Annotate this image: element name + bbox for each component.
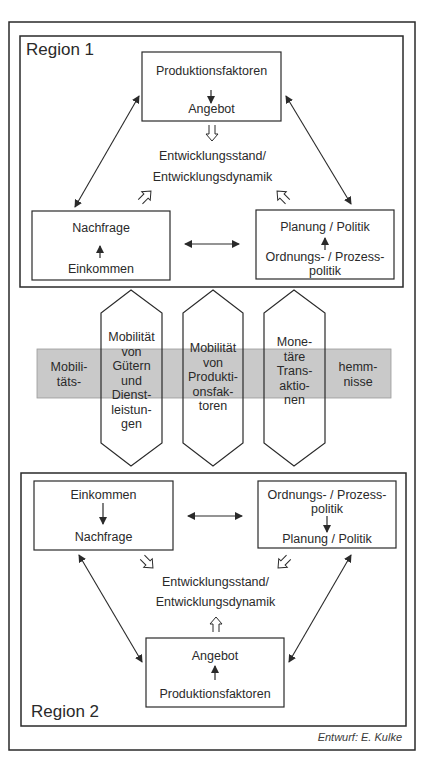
barrier-label-right: hemm- nisse: [328, 360, 388, 389]
region1-development-status: Entwicklungsstand/: [130, 149, 295, 163]
region2-hollow-arrow-downright: [138, 553, 157, 572]
region2-income: Einkommen: [34, 488, 173, 502]
region1-development-dynamics: Entwicklungsdynamik: [130, 170, 295, 184]
region2-hollow-arrow-downleft: [274, 553, 293, 572]
region1-label: Region 1: [26, 40, 94, 60]
region1-hollow-arrow-upleft: [273, 187, 292, 206]
region1-planning-policy: Planung / Politik: [256, 220, 394, 234]
region2-planning-policy: Planung / Politik: [258, 532, 396, 546]
region1-income: Einkommen: [32, 262, 170, 276]
region2-production-factors: Produktionsfaktoren: [146, 687, 284, 701]
region1-hollow-arrow-upright: [136, 187, 155, 206]
region1-hollow-arrow-down: [206, 125, 218, 141]
region1-regulatory-policy: Ordnungs- / Prozess-: [256, 250, 394, 264]
region2-label: Region 2: [31, 702, 99, 722]
author-credit: Entwurf: E. Kulke: [300, 731, 402, 743]
region2-diag-right-arrow: [289, 555, 351, 662]
column-monetary-transactions-text: Mone- täre Trans- aktio- nen: [264, 335, 325, 408]
region2-hollow-arrow-up: [210, 617, 222, 632]
region1-demand: Nachfrage: [32, 221, 170, 235]
barrier-label-left: Mobili- täts-: [40, 360, 98, 389]
region2-demand: Nachfrage: [34, 530, 173, 544]
region2-supply: Angebot: [146, 649, 284, 663]
column-goods-services-text: Mobilität von Gütern und Dienst- leistun…: [101, 330, 162, 432]
region1-politik: politik: [256, 264, 394, 278]
region2-politik: politik: [258, 502, 396, 516]
region1-diag-right-arrow: [286, 96, 351, 204]
region2-development-dynamics: Entwicklungsdynamik: [133, 595, 298, 609]
column-production-factors-text: Mobilität von Produkti- onsfak- toren: [181, 341, 245, 414]
region2-development-status: Entwicklungsstand/: [133, 575, 298, 589]
region1-production-factors: Produktionsfaktoren: [142, 64, 281, 78]
region1-supply: Angebot: [142, 102, 281, 116]
region2-regulatory-policy: Ordnungs- / Prozess-: [258, 488, 396, 502]
